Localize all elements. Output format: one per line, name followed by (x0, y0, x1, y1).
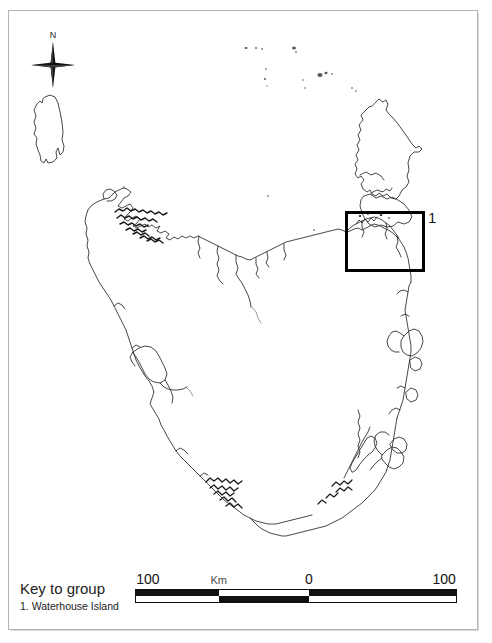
scale-label-right: 100 (432, 572, 455, 586)
bass-strait-islets (123, 47, 357, 231)
gordon-river (165, 380, 173, 403)
storm-bay (370, 458, 382, 470)
scale-bar: 100 Km 0 100 (135, 572, 457, 603)
tasmania-coastline-east (397, 282, 411, 418)
schouten-island (410, 357, 422, 371)
north-inlet-c (256, 258, 259, 278)
freycinet-peninsula (401, 329, 423, 356)
map-figure: N 1 Key to group 1. Waterhouse Island 10… (0, 0, 492, 643)
southwest-dense-coast (206, 478, 242, 508)
compass-rose-icon: N (30, 30, 76, 90)
legend-item-waterhouse-island: 1. Waterhouse Island (20, 600, 135, 612)
scale-bar-row-bottom (136, 596, 456, 602)
scale-block-bottom-2 (219, 596, 309, 602)
flinders-island-outline (355, 99, 422, 199)
tasmania-coastline-west (90, 264, 312, 524)
inland-river-hint-b (186, 387, 193, 396)
scale-block-bottom-3 (309, 596, 456, 602)
tamar-estuary (217, 246, 223, 284)
maria-island (406, 388, 418, 402)
east-inlet-b (401, 314, 409, 316)
east-inlet-c (397, 386, 405, 388)
inset-locator-label: 1 (428, 210, 436, 225)
legend-title: Key to group (20, 580, 135, 597)
west-coast-notch-b (132, 345, 140, 348)
north-inlet-b (236, 255, 251, 307)
scale-unit-label: Km (210, 575, 227, 586)
clarke-island-outline (371, 188, 392, 193)
dentrecasteaux-channel (344, 427, 370, 478)
west-coast-notch-d (200, 473, 208, 476)
north-inlet-a (198, 236, 200, 258)
inland-river-hint-a (252, 307, 261, 323)
scale-bar-labels: 100 Km 0 100 (135, 572, 457, 589)
macquarie-channel (160, 383, 187, 390)
west-coast-notch-a (114, 303, 125, 309)
scale-label-zero: 0 (305, 572, 313, 586)
scale-label-left: 100 (136, 572, 159, 586)
northwest-cape (85, 210, 90, 264)
scale-block-bottom-1 (136, 596, 219, 602)
east-inlet-a (397, 290, 408, 294)
legend: Key to group 1. Waterhouse Island (20, 580, 135, 612)
norfolk-bay (374, 432, 389, 455)
scale-bar-blocks (135, 589, 457, 603)
north-coast-dense-detail (115, 208, 167, 243)
inset-locator-box (345, 211, 425, 272)
southeast-dense-detail (318, 480, 352, 504)
compass-north-label: N (30, 30, 76, 40)
map-canvas (0, 0, 492, 643)
north-inlet-e (284, 244, 286, 260)
king-island-outline (34, 95, 64, 163)
north-inlet-d (266, 252, 269, 267)
tasmania-coastline-south (250, 418, 397, 536)
